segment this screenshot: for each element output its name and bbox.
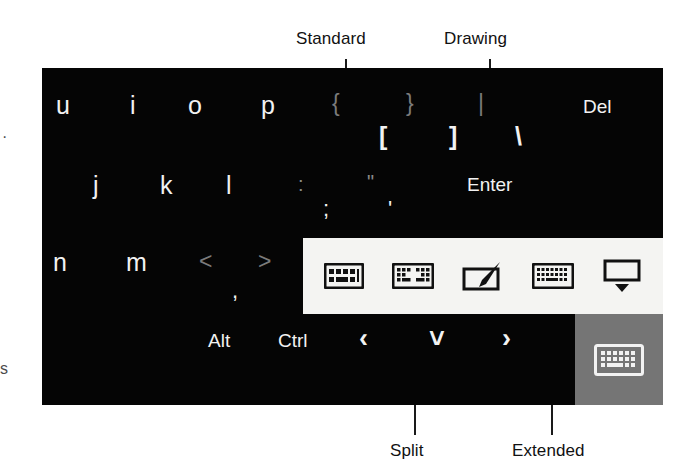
keyboard-mode-popup[interactable] (303, 238, 663, 314)
key-k[interactable]: k (160, 173, 173, 198)
key-o[interactable]: o (188, 93, 202, 118)
key-i[interactable]: i (130, 93, 136, 118)
key-greater-than-shift[interactable]: > (258, 250, 271, 273)
key-backslash[interactable]: \ (515, 124, 522, 149)
key-right-bracket[interactable]: ] (449, 124, 457, 149)
callout-label-standard: Standard (296, 29, 366, 49)
drawing-pad-icon (462, 261, 504, 291)
key-apostrophe[interactable]: ' (388, 198, 392, 220)
page-edge-mark-top: · (2, 128, 7, 146)
callout-leader-split (414, 405, 416, 435)
key-n[interactable]: n (53, 250, 67, 275)
key-j[interactable]: j (93, 173, 99, 198)
callout-label-drawing: Drawing (444, 29, 507, 49)
key-less-than-shift[interactable]: < (199, 250, 212, 273)
callout-label-extended: Extended (512, 441, 585, 461)
drawing-pad-button[interactable] (457, 254, 509, 298)
key-u[interactable]: u (56, 93, 70, 118)
callout-label-split: Split (390, 441, 424, 461)
standard-keyboard-button[interactable] (318, 254, 370, 298)
extended-keyboard-button[interactable] (527, 254, 579, 298)
key-doublequote-shift[interactable]: " (367, 172, 374, 192)
key-left-bracket[interactable]: [ (379, 124, 387, 149)
standard-keyboard-icon (324, 263, 364, 289)
key-l[interactable]: l (226, 173, 232, 198)
extended-keyboard-icon (532, 263, 574, 289)
key-enter[interactable]: Enter (467, 175, 512, 194)
hide-keyboard-icon (602, 259, 642, 293)
key-ctrl[interactable]: Ctrl (278, 331, 308, 350)
key-alt[interactable]: Alt (208, 331, 230, 350)
callout-leader-extended (551, 405, 553, 435)
down-arrow-key[interactable]: ˅ (429, 326, 445, 353)
left-arrow-key[interactable]: ‹ (359, 325, 368, 352)
split-keyboard-button[interactable] (387, 254, 439, 298)
split-keyboard-icon (392, 263, 434, 289)
key-delete[interactable]: Del (583, 97, 612, 116)
hide-keyboard-popup-button[interactable] (596, 254, 648, 298)
right-arrow-key[interactable]: › (502, 325, 511, 352)
key-m[interactable]: m (126, 250, 147, 275)
key-pipe-shift[interactable]: | (478, 92, 484, 115)
key-semicolon[interactable]: ; (323, 198, 329, 220)
keyboard-toggle-button[interactable] (575, 314, 663, 405)
keyboard-icon (594, 344, 644, 376)
key-colon-shift[interactable]: : (298, 174, 304, 194)
key-p[interactable]: p (261, 93, 275, 118)
key-left-brace-shift[interactable]: { (332, 92, 340, 115)
touch-keyboard-panel[interactable]: u i o p { } | [ ] \ Del j k l : " ; ' En… (42, 68, 663, 405)
key-right-brace-shift[interactable]: } (406, 92, 414, 115)
page-edge-mark-bottom: s (0, 360, 8, 378)
key-comma[interactable]: , (232, 280, 238, 302)
